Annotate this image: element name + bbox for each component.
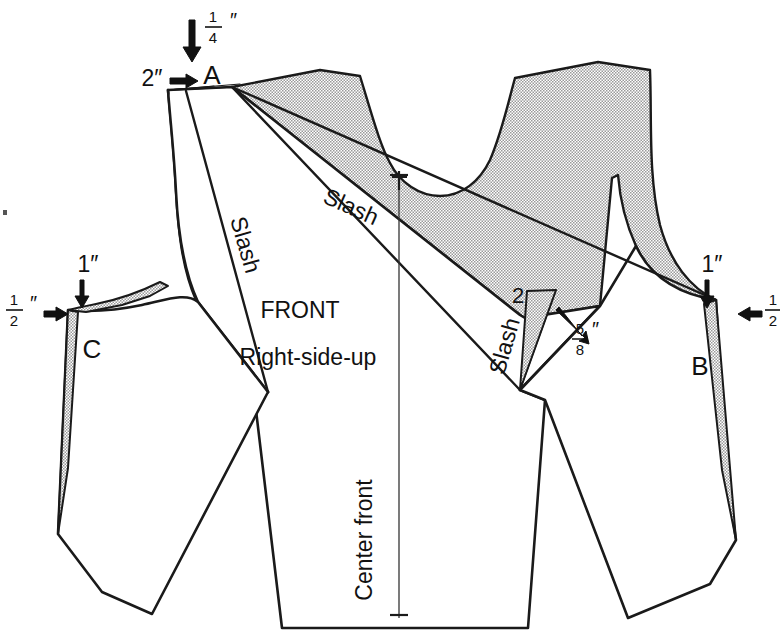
measurement-half-inch-left: 1 2 ″ bbox=[6, 291, 68, 329]
point-label-b: B bbox=[691, 351, 708, 381]
frac-numerator-half-left: 1 bbox=[10, 291, 18, 308]
stray-speck bbox=[3, 210, 7, 215]
frac-unit-half-left: ″ bbox=[30, 292, 37, 314]
arrow-right-half-inch-left bbox=[44, 307, 68, 321]
meas-value-two-inch: 2″ bbox=[142, 65, 163, 91]
frac-denominator-quarter: 4 bbox=[209, 29, 217, 46]
frac-denominator-half-right: 2 bbox=[769, 312, 777, 329]
pattern-drawing: A C B 2 FRONT Right-side-up Center front… bbox=[0, 0, 780, 641]
label-center-front: Center front bbox=[351, 479, 377, 601]
measurement-one-inch-left: 1″ bbox=[75, 251, 98, 308]
frac-numerator-half-right: 1 bbox=[769, 291, 777, 308]
arrow-down-one-inch-left bbox=[75, 280, 89, 308]
measurement-half-inch-right: 1 2 bbox=[738, 291, 780, 329]
frac-unit-quarter: ″ bbox=[230, 9, 237, 31]
point-label-2: 2 bbox=[512, 283, 524, 308]
frac-numerator-quarter: 1 bbox=[209, 8, 217, 25]
point-label-c: C bbox=[83, 334, 102, 364]
label-front: FRONT bbox=[260, 297, 339, 323]
arrow-down-quarter-inch bbox=[183, 20, 201, 62]
frac-denominator-half-left: 2 bbox=[10, 312, 18, 329]
point-label-a: A bbox=[203, 60, 221, 90]
arrow-right-two-inch bbox=[170, 74, 198, 88]
frac-numerator-five-eighths: 5 bbox=[576, 320, 584, 337]
meas-value-one-inch-left: 1″ bbox=[78, 251, 99, 277]
arrow-left-half-inch-right bbox=[738, 307, 762, 321]
frac-unit-five-eighths: ″ bbox=[592, 318, 599, 340]
label-right-side-up: Right-side-up bbox=[240, 344, 377, 370]
pattern-diagram: A C B 2 FRONT Right-side-up Center front… bbox=[0, 0, 780, 641]
frac-denominator-five-eighths: 8 bbox=[576, 341, 584, 358]
meas-value-one-inch-right: 1″ bbox=[702, 251, 723, 277]
measurement-two-inch-shoulder: 2″ bbox=[142, 65, 198, 91]
measurement-quarter-inch-top: 1 4 ″ bbox=[183, 8, 237, 62]
measurement-one-inch-right: 1″ bbox=[700, 251, 722, 308]
